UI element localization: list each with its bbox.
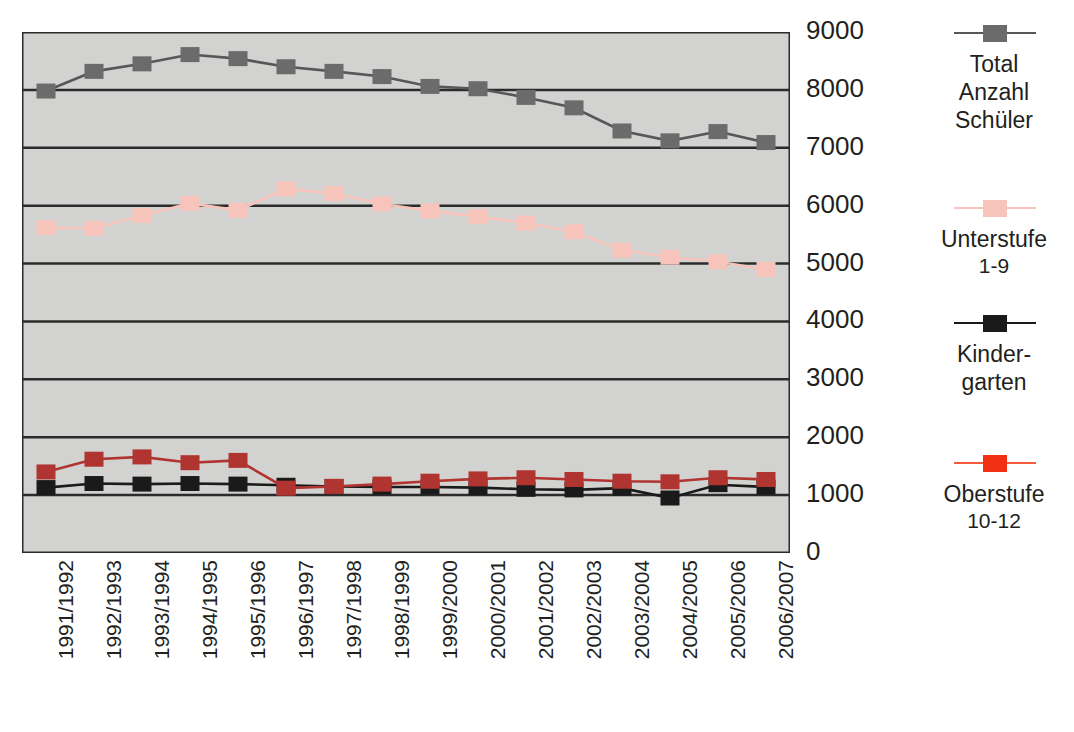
data-point-marker [613,243,632,258]
data-point-marker [229,453,248,468]
data-point-marker [757,135,776,150]
data-point-marker [85,221,104,236]
data-point-marker [181,47,200,62]
legend-sublabel-unterstufe: 1-9 [918,253,1070,279]
data-point-marker [565,100,584,115]
legend-item-kindergarten[interactable]: Kinder- garten [918,310,1070,396]
x-axis-tick-label: 1998/1999 [391,560,412,720]
series-line [46,55,766,143]
data-point-marker [133,208,152,223]
legend-item-unterstufe[interactable]: Unterstufe1-9 [918,195,1070,279]
data-point-marker [373,196,392,211]
data-point-marker [181,196,200,211]
data-point-marker [85,64,104,79]
x-axis-tick-label: 1995/1996 [247,560,268,720]
y-axis-tick-label: 4000 [806,306,864,332]
data-point-marker [469,471,488,486]
legend-label-oberstufe: Oberstufe [918,480,1070,508]
data-point-marker [37,84,56,99]
data-point-marker [181,476,200,491]
data-point-marker [85,452,104,467]
legend-marker-icon [983,315,1007,332]
legend-marker-icon [983,455,1007,472]
data-point-marker [661,133,680,148]
x-axis: 1991/19921992/19931993/19941994/19951995… [22,560,790,732]
legend-item-oberstufe[interactable]: Oberstufe10-12 [918,450,1070,534]
legend-label-total-anzahl-schueler: Total Anzahl Schüler [918,50,1070,134]
data-point-marker [325,186,344,201]
y-axis: 9000800070006000500040003000200010000 [806,0,896,600]
data-point-marker [613,474,632,489]
data-point-marker [517,470,536,485]
x-axis-tick-label: 1997/1998 [343,560,364,720]
data-point-marker [661,250,680,265]
y-axis-tick-label: 1000 [806,480,864,506]
plot-canvas [22,32,790,553]
data-point-marker [37,220,56,235]
data-point-marker [277,181,296,196]
data-point-marker [229,51,248,66]
data-point-marker [421,474,440,489]
legend-marker-icon [983,25,1007,42]
data-point-marker [661,491,680,506]
legend-swatch-total-anzahl-schueler [918,20,1070,46]
y-axis-tick-label: 7000 [806,133,864,159]
data-point-marker [133,449,152,464]
legend-swatch-kindergarten [918,310,1070,336]
data-point-marker [613,123,632,138]
data-point-marker [325,64,344,79]
y-axis-tick-label: 8000 [806,75,864,101]
legend-marker-icon [983,200,1007,217]
x-axis-tick-label: 2000/2001 [487,560,508,720]
data-point-marker [565,224,584,239]
data-point-marker [37,480,56,495]
data-point-marker [709,124,728,139]
x-axis-tick-label: 1991/1992 [55,560,76,720]
series-1 [37,47,776,150]
data-point-marker [421,203,440,218]
data-point-marker [37,464,56,479]
data-point-marker [757,262,776,277]
legend-swatch-oberstufe [918,450,1070,476]
data-point-marker [517,216,536,231]
data-point-marker [709,254,728,269]
data-point-marker [757,472,776,487]
x-axis-tick-label: 2004/2005 [679,560,700,720]
x-axis-tick-label: 1992/1993 [103,560,124,720]
data-point-marker [469,81,488,96]
x-axis-tick-label: 1996/1997 [295,560,316,720]
data-point-marker [469,209,488,224]
x-axis-tick-label: 1994/1995 [199,560,220,720]
data-point-marker [709,470,728,485]
data-point-marker [373,69,392,84]
data-point-marker [229,203,248,218]
series-line [46,189,766,269]
x-axis-tick-label: 2006/2007 [775,560,796,720]
y-axis-tick-label: 6000 [806,191,864,217]
x-axis-tick-label: 2002/2003 [583,560,604,720]
data-point-marker [661,474,680,489]
y-axis-tick-label: 9000 [806,17,864,43]
y-axis-tick-label: 3000 [806,364,864,390]
legend-item-total-anzahl-schueler[interactable]: Total Anzahl Schüler [918,20,1070,134]
x-axis-tick-label: 1993/1994 [151,560,172,720]
chart-legend: Total Anzahl SchülerUnterstufe1-9Kinder-… [918,10,1070,580]
data-point-marker [421,79,440,94]
legend-label-kindergarten: Kinder- garten [918,340,1070,396]
data-point-marker [517,90,536,105]
legend-sublabel-oberstufe: 10-12 [918,508,1070,534]
data-point-marker [277,481,296,496]
legend-swatch-unterstufe [918,195,1070,221]
data-point-marker [85,476,104,491]
chart-container: 9000800070006000500040003000200010000 19… [0,0,1074,732]
y-axis-tick-label: 0 [806,538,820,564]
legend-label-unterstufe: Unterstufe [918,225,1070,253]
data-point-marker [133,56,152,71]
y-axis-tick-label: 2000 [806,422,864,448]
data-point-marker [181,455,200,470]
x-axis-tick-label: 2001/2002 [535,560,556,720]
x-axis-tick-label: 2005/2006 [727,560,748,720]
y-axis-tick-label: 5000 [806,249,864,275]
x-axis-tick-label: 1999/2000 [439,560,460,720]
data-point-marker [325,479,344,494]
